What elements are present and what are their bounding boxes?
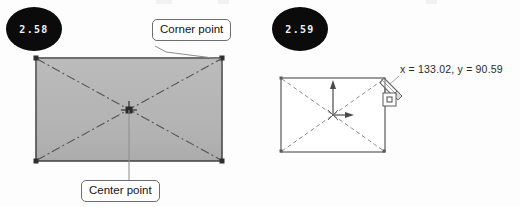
coordinate-readout-text: x = 133.02, y = 90.59 [400, 63, 503, 75]
figure-panel-2-59: 2.59 [260, 0, 520, 207]
callout-center-point: Center point [81, 180, 160, 202]
callout-center-point-label: Center point [89, 184, 152, 196]
figure-badge-2-59: 2.59 [272, 7, 328, 51]
callout-corner-point: Corner point [152, 19, 231, 41]
coordinate-readout: x = 133.02, y = 90.59 [400, 63, 503, 75]
figure-badge-label: 2.59 [285, 24, 314, 35]
figure-badge-label: 2.58 [19, 24, 48, 35]
figure-panel-2-58: 2.58 Corner point Center point [0, 0, 260, 207]
callout-corner-point-label: Corner point [160, 23, 223, 35]
figure-badge-2-58: 2.58 [6, 7, 62, 51]
